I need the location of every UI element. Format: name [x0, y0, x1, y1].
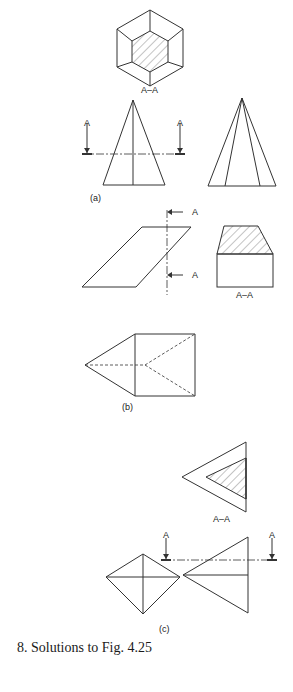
part-b-section-view — [217, 226, 273, 287]
part-b-label: (b) — [122, 402, 133, 412]
part-c-cut-marker-left: A — [163, 530, 169, 540]
part-b-section-label: A–A — [236, 290, 253, 300]
part-a-front-view-pyramid — [82, 100, 185, 185]
part-b-top-view-prism — [85, 334, 195, 396]
part-b-cut-marker-bottom: A — [192, 270, 198, 280]
part-c-cut-marker-right: A — [269, 530, 275, 540]
part-a-section-hexagon — [117, 10, 183, 86]
figure-canvas: A–A A A (a) A A A–A (b) — [0, 0, 293, 692]
part-b-parallelogram-view — [82, 209, 191, 295]
part-c-front-view-triangle — [161, 537, 277, 613]
part-c-section-triangle — [182, 442, 246, 512]
part-a-label: (a) — [90, 193, 101, 203]
part-a-cut-marker-left: A — [84, 118, 90, 128]
part-a-section-label: A–A — [141, 85, 158, 95]
figure-caption: 8. Solutions to Fig. 4.25 — [17, 640, 152, 655]
part-c-section-label: A–A — [213, 514, 230, 524]
part-a-cut-marker-right: A — [177, 118, 183, 128]
part-c-label: (c) — [159, 624, 170, 634]
part-b-cut-marker-top: A — [192, 207, 198, 217]
part-c-top-view-square — [106, 554, 180, 614]
part-a-side-view-pyramid — [208, 98, 276, 186]
